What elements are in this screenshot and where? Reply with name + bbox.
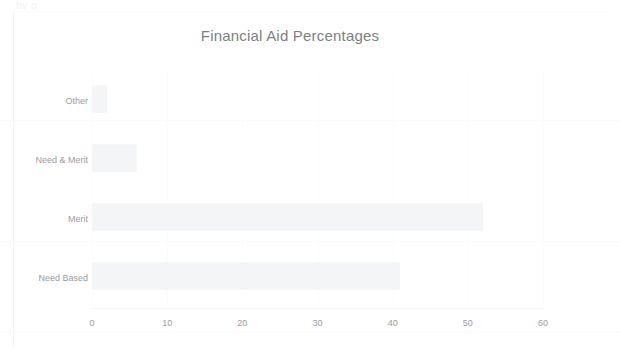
plot-area <box>92 72 543 308</box>
bar-need-based <box>92 262 400 290</box>
bar-row <box>92 249 543 308</box>
bar-need-merit <box>92 144 137 172</box>
x-tick-label-60: 60 <box>523 318 563 328</box>
chart-title: Financial Aid Percentages <box>0 27 580 44</box>
x-tick-label-50: 50 <box>448 318 488 328</box>
x-tick-label-30: 30 <box>298 318 338 328</box>
bar-row <box>92 72 543 131</box>
y-tick-label-need-based: Need Based <box>8 273 88 284</box>
scan-band <box>0 331 620 332</box>
bar-merit <box>92 203 483 231</box>
gridline-60 <box>543 72 544 308</box>
x-tick-label-20: 20 <box>222 318 262 328</box>
y-tick-label-merit: Merit <box>8 214 88 225</box>
scan-band <box>0 241 620 242</box>
x-axis-line <box>92 308 543 309</box>
financial-aid-bar-chart: Financial Aid Percentages OtherNeed & Me… <box>0 0 620 358</box>
bar-row <box>92 131 543 190</box>
bar-other <box>92 85 107 113</box>
y-tick-label-need-merit: Need & Merit <box>8 155 88 166</box>
y-tick-label-other: Other <box>8 96 88 107</box>
x-tick-label-40: 40 <box>373 318 413 328</box>
scan-band <box>0 120 620 121</box>
x-tick-label-10: 10 <box>147 318 187 328</box>
x-tick-label-0: 0 <box>72 318 112 328</box>
